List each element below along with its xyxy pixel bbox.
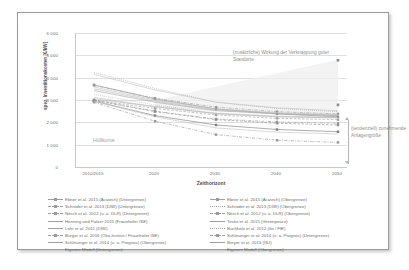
chart-area: 01 0002 0003 0004 0005 0006 000 2010/201… bbox=[18, 13, 390, 251]
annotation-bracket bbox=[348, 120, 349, 164]
legend-label: Bürger et al. 2016 (Öko-Institut / Fraun… bbox=[65, 233, 159, 238]
series-marker bbox=[337, 118, 339, 120]
legend-label: Schlesinger et al. 2014 (u. a. Prognos) … bbox=[227, 233, 329, 238]
x-tick-label: 2010/2015 bbox=[70, 171, 116, 176]
legend-item[interactable]: Schröder et al. 2013 (DIW) (Untergrenze) bbox=[48, 203, 206, 210]
annotation-envelope: Hüllkurve bbox=[93, 137, 115, 145]
legend-item[interactable]: Teske et al. 2015 (Greenpeace) bbox=[210, 218, 368, 225]
legend-swatch-icon bbox=[48, 247, 63, 253]
legend-swatch-icon bbox=[210, 204, 225, 210]
legend-label: Nitsch et al. 2012 (u. a. DLR) (Untergre… bbox=[65, 211, 149, 216]
legend-label: Ebner et al. 2015 (Acatech) (Untergrenze… bbox=[65, 197, 146, 202]
legend-swatch-icon bbox=[210, 197, 225, 203]
legend-column-left: Ebner et al. 2015 (Acatech) (Untergrenze… bbox=[48, 196, 206, 254]
legend-item[interactable]: Bürger et al. 2016 (Öko-Institut / Fraun… bbox=[48, 232, 206, 239]
legend-swatch-icon bbox=[48, 211, 63, 217]
legend-swatch-icon bbox=[210, 218, 225, 224]
series-marker bbox=[215, 133, 217, 135]
legend-label: Eigenes Modell (Obergrenze) bbox=[227, 247, 284, 252]
annotation-scarcity-effect: (zusätzliche) Wirkung der Verknappung gu… bbox=[233, 49, 333, 63]
legend-label: Ebner et al. 2015 (Acatech) (Obergrenze) bbox=[227, 197, 307, 202]
scatter-point bbox=[337, 104, 340, 107]
legend-label: Schröder et al. 2013 (DIW) (Obergrenze) bbox=[227, 204, 306, 209]
series-marker bbox=[215, 118, 217, 120]
series-marker bbox=[93, 84, 95, 86]
series-marker bbox=[154, 107, 156, 109]
legend-swatch-icon bbox=[210, 225, 225, 231]
series-marker bbox=[215, 106, 217, 108]
legend-label: Lehr et al. 2011 (DIW) bbox=[65, 226, 107, 231]
legend-swatch-icon bbox=[210, 211, 225, 217]
legend-item[interactable]: Schlesinger et al. 2014 (u. a. Prognos) … bbox=[210, 232, 368, 239]
legend-label: Schlesinger et al. 2014 (u. a. Prognos) … bbox=[65, 240, 166, 245]
legend-item[interactable]: Nitsch et al. 2012 (u. a. DLR) (Obergren… bbox=[210, 210, 368, 217]
x-tick-label: 2040 bbox=[253, 171, 299, 176]
series-marker bbox=[337, 131, 339, 133]
legend-item[interactable]: Buchholz et al. 2012 (ifo / FfE) bbox=[210, 225, 368, 232]
legend-item[interactable]: Nitsch et al. 2012 (u. a. DLR) (Untergre… bbox=[48, 210, 206, 217]
series-marker bbox=[337, 124, 339, 126]
series-marker bbox=[276, 139, 278, 141]
series-marker bbox=[276, 117, 278, 119]
y-tick-label: 0 bbox=[30, 167, 58, 172]
legend-item[interactable]: Breyer et al. 2013 (ISJ) bbox=[210, 239, 368, 246]
legend-label: Teske et al. 2015 (Greenpeace) bbox=[227, 219, 288, 224]
x-tick-label: 2020 bbox=[131, 171, 177, 176]
y-tick-label: 1 000 bbox=[30, 145, 58, 150]
legend-item[interactable]: Eigenes Modell (Obergrenze) bbox=[210, 246, 368, 253]
y-axis-title: spez. Investitionskosten [€/kW] bbox=[43, 28, 49, 124]
x-axis-line bbox=[75, 167, 347, 168]
legend-swatch-icon bbox=[48, 204, 63, 210]
legend-swatch-icon bbox=[48, 240, 63, 246]
legend-item[interactable]: Eigenes Modell (Untergrenze) bbox=[48, 246, 206, 253]
legend-swatch-icon bbox=[210, 240, 225, 246]
series-marker bbox=[215, 124, 217, 126]
series-marker bbox=[337, 141, 339, 143]
series-marker bbox=[154, 120, 156, 122]
legend-label: Eigenes Modell (Untergrenze) bbox=[65, 247, 123, 252]
legend-swatch-icon bbox=[210, 247, 225, 253]
legend-item[interactable]: Lehr et al. 2011 (DIW) bbox=[48, 225, 206, 232]
x-tick-label: 2030 bbox=[192, 171, 238, 176]
legend-label: Nitsch et al. 2012 (u. a. DLR) (Obergren… bbox=[227, 211, 310, 216]
legend-swatch-icon bbox=[48, 233, 63, 239]
annotation-plant-size: (tendenziell) zunehmende Anlagengröße bbox=[351, 125, 409, 139]
x-axis-title: Zeithorizont bbox=[75, 180, 347, 186]
legend-item[interactable]: Schröder et al. 2013 (DIW) (Obergrenze) bbox=[210, 203, 368, 210]
legend-label: Breyer et al. 2013 (ISJ) bbox=[227, 240, 272, 245]
legend-item[interactable]: Ebner et al. 2015 (Acatech) (Untergrenze… bbox=[48, 196, 206, 203]
legend-swatch-icon bbox=[48, 225, 63, 231]
figure-frame: 01 0002 0003 0004 0005 0006 000 2010/201… bbox=[17, 12, 389, 250]
series-marker bbox=[276, 128, 278, 130]
legend-item[interactable]: Henning und Palzer 2015 (Fraunhofer ISE) bbox=[48, 218, 206, 225]
x-tick-label: 2050 bbox=[314, 171, 360, 176]
scatter-point bbox=[337, 59, 340, 62]
legend-label: Schröder et al. 2013 (DIW) (Untergrenze) bbox=[65, 204, 145, 209]
series-marker bbox=[154, 110, 156, 112]
legend-swatch-icon bbox=[48, 218, 63, 224]
legend-item[interactable]: Ebner et al. 2015 (Acatech) (Obergrenze) bbox=[210, 196, 368, 203]
arrow-down-icon bbox=[345, 161, 349, 164]
series-marker bbox=[154, 97, 156, 99]
legend-label: Henning und Palzer 2015 (Fraunhofer ISE) bbox=[65, 219, 148, 224]
legend-swatch-icon bbox=[48, 197, 63, 203]
legend-column-right: Ebner et al. 2015 (Acatech) (Obergrenze)… bbox=[210, 196, 368, 254]
legend-swatch-icon bbox=[210, 233, 225, 239]
series-marker bbox=[276, 122, 278, 124]
arrow-up-icon bbox=[345, 117, 349, 120]
legend-label: Buchholz et al. 2012 (ifo / FfE) bbox=[227, 226, 285, 231]
legend-item[interactable]: Schlesinger et al. 2014 (u. a. Prognos) … bbox=[48, 239, 206, 246]
